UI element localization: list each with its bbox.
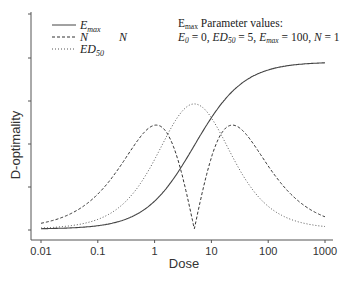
series-line-ed50 <box>41 104 325 228</box>
d-optimality-chart: 0.010.11101001000 Dose D-optimality Emax… <box>0 0 351 282</box>
annotation-line-2: E0 = 0, ED50 = 5, Emax = 100, N = 1 <box>177 31 340 45</box>
y-axis-label: D-optimality <box>8 110 23 179</box>
x-tick-label: 100 <box>259 245 277 257</box>
x-tick-label: 0.1 <box>90 245 105 257</box>
x-ticks: 0.010.11101001000 <box>30 240 337 257</box>
x-tick-label: 0.01 <box>30 245 51 257</box>
x-tick-label: 1 <box>152 245 158 257</box>
series-line-emax <box>41 63 325 229</box>
floating-n-label: N <box>118 30 128 44</box>
x-axis-label: Dose <box>169 256 199 271</box>
x-tick-label: 10 <box>205 245 217 257</box>
legend: Emax N ED50 N <box>52 18 128 58</box>
x-tick-label: 1000 <box>313 245 337 257</box>
legend-item-ed50: ED50 <box>79 42 104 58</box>
parameter-annotation: Emax Parameter values: E0 = 0, ED50 = 5,… <box>177 17 340 45</box>
curves <box>41 63 325 229</box>
annotation-line-1: Emax Parameter values: <box>178 17 283 31</box>
series-line-n <box>41 125 325 229</box>
